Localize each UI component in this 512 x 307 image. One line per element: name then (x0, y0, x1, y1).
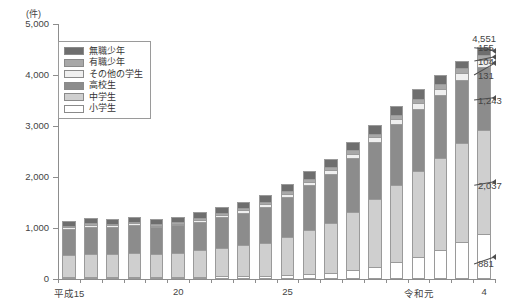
bar-segment-中学生 (455, 143, 469, 242)
x-tick-label: 4 (481, 286, 486, 297)
bar-segment-中学生 (193, 250, 207, 277)
y-tick-label: 1,000 (25, 222, 49, 233)
bar-segment-無職少年 (390, 106, 404, 115)
bar-segment-中学生 (62, 255, 76, 277)
bar-segment-中学生 (259, 243, 273, 276)
x-tick-mark (145, 279, 146, 283)
bar-27 (324, 159, 338, 279)
bar-segment-小学生 (303, 274, 317, 279)
bar-segment-中学生 (368, 199, 382, 266)
bar-segment-無職少年 (368, 125, 382, 134)
bar-segment-小学生 (281, 275, 295, 279)
x-tick-mark (386, 279, 387, 283)
legend-swatch (64, 47, 84, 55)
bar-16 (84, 218, 98, 279)
bar-segment-高校生 (128, 225, 142, 253)
bar-segment-高校生 (215, 217, 229, 248)
bar-segment-無職少年 (259, 195, 273, 202)
x-tick-label: 25 (282, 286, 293, 297)
bar-segment-中学生 (128, 253, 142, 277)
legend-item-小学生: 小学生 (64, 104, 143, 114)
bar-segment-高校生 (455, 80, 469, 144)
x-tick-label: 平成15 (54, 286, 85, 300)
bar-segment-小学生 (412, 257, 426, 279)
bar-segment-高校生 (193, 222, 207, 251)
x-tick-mark (364, 279, 365, 283)
x-tick-mark (298, 279, 299, 283)
x-tick-mark (102, 279, 103, 283)
bar-segment-高校生 (390, 124, 404, 185)
legend-item-その他の学生: その他の学生 (64, 69, 143, 79)
x-tick-mark (429, 279, 430, 283)
bar-26 (303, 171, 317, 279)
bar-segment-中学生 (281, 237, 295, 275)
bar-segment-小学生 (84, 277, 98, 279)
callout-arrow-icon (492, 179, 496, 185)
bar-segment-高校生 (150, 227, 164, 254)
legend-label: 有職少年 (89, 58, 125, 67)
bar-segment-高校生 (62, 229, 76, 256)
bar-segment-中学生 (324, 223, 338, 273)
legend-label: 高校生 (89, 81, 116, 90)
bar-segment-小学生 (346, 270, 360, 279)
bar-18 (128, 217, 142, 279)
legend-item-中学生: 中学生 (64, 92, 143, 102)
callout-arrow-icon (492, 48, 496, 54)
bar-segment-小学生 (128, 277, 142, 279)
y-tick-label: 2,000 (25, 171, 49, 182)
chart-figure: (件) 01,0002,0003,0004,0005,000 平成152025令… (0, 0, 512, 307)
bar-segment-高校生 (412, 109, 426, 172)
bar-segment-中学生 (84, 254, 98, 277)
bar-25 (281, 184, 295, 279)
y-tick-label: 4,000 (25, 69, 49, 80)
bar-segment-小学生 (455, 242, 469, 279)
x-tick-mark (342, 279, 343, 283)
bar-segment-小学生 (390, 262, 404, 279)
bar-segment-中学生 (303, 230, 317, 274)
bar-segment-無職少年 (412, 89, 426, 98)
bar-segment-無職少年 (455, 61, 469, 69)
x-tick-mark (473, 279, 474, 283)
bar-segment-中学生 (237, 245, 251, 276)
bar-segment-小学生 (368, 267, 382, 279)
bar-29 (368, 125, 382, 279)
legend-item-高校生: 高校生 (64, 81, 143, 91)
bar-segment-中学生 (412, 171, 426, 257)
bar-segment-無職少年 (303, 171, 317, 179)
bar-2 (434, 75, 448, 279)
bar-segment-無職少年 (281, 184, 295, 191)
x-tick-mark (211, 279, 212, 283)
x-tick-mark (495, 279, 496, 283)
callout-arrow-icon (492, 60, 496, 66)
bar-segment-高校生 (434, 95, 448, 158)
bar-segment-高校生 (171, 225, 185, 253)
bar-segment-中学生 (106, 254, 120, 277)
y-tick-label: 0 (44, 273, 49, 284)
chart-legend: 無職少年有職少年その他の学生高校生中学生小学生 (58, 41, 151, 119)
bar-17 (106, 219, 120, 279)
bar-segment-小学生 (106, 277, 120, 279)
legend-item-有職少年: 有職少年 (64, 58, 143, 68)
bar-segment-中学生 (346, 212, 360, 271)
x-tick-mark (167, 279, 168, 283)
bar-segment-高校生 (259, 207, 273, 243)
bar-23 (237, 202, 251, 279)
bar-segment-高校生 (84, 227, 98, 255)
bar-segment-小学生 (171, 277, 185, 279)
bar-令和元 (412, 89, 426, 279)
x-tick-mark (189, 279, 190, 283)
y-tick-label: 3,000 (25, 120, 49, 131)
bar-segment-高校生 (106, 227, 120, 254)
bar-segment-無職少年 (434, 75, 448, 84)
x-tick-mark (124, 279, 125, 283)
bar-segment-中学生 (434, 158, 448, 250)
bar-segment-小学生 (193, 277, 207, 279)
bar-segment-高校生 (324, 174, 338, 223)
bar-segment-無職少年 (324, 159, 338, 167)
legend-label: その他の学生 (89, 70, 143, 79)
x-tick-mark (58, 279, 59, 283)
bar-segment-高校生 (368, 142, 382, 199)
x-tick-label: 20 (173, 286, 184, 297)
bar-3 (455, 61, 469, 279)
bar-segment-高校生 (303, 185, 317, 230)
